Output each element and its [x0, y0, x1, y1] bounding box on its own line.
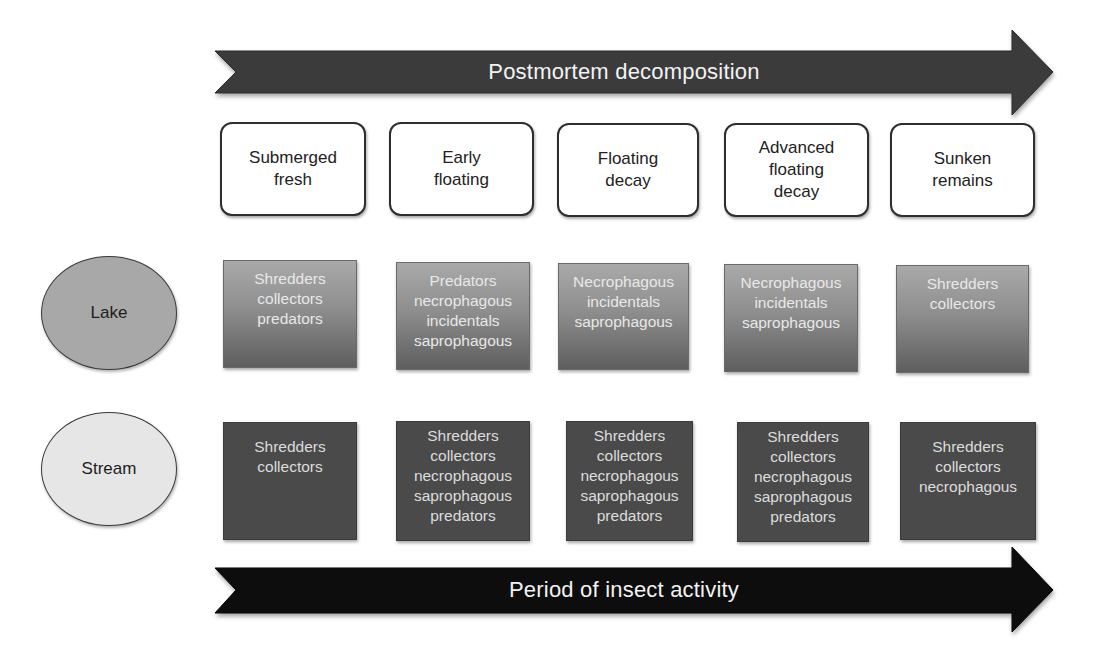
cell-text: Shredders collectors necrophagous saprop… — [580, 427, 678, 524]
habitat-stream: Stream — [41, 412, 177, 526]
stream-cell-floating-decay: Shredders collectors necrophagous saprop… — [566, 421, 693, 541]
habitat-label: Stream — [82, 459, 137, 479]
lake-cell-advanced-floating-decay: Necrophagous incidentals saprophagous — [724, 264, 858, 372]
cell-text: Shredders collectors necrophagous saprop… — [754, 428, 852, 525]
stage-early-floating: Early floating — [389, 122, 534, 216]
cell-text: Shredders collectors necrophagous — [919, 438, 1017, 495]
lake-cell-floating-decay: Necrophagous incidentals saprophagous — [558, 263, 689, 370]
stage-label: Advanced floating decay — [759, 137, 835, 203]
stream-cell-advanced-floating-decay: Shredders collectors necrophagous saprop… — [737, 422, 869, 542]
stage-label: Floating decay — [598, 148, 658, 192]
habitat-lake: Lake — [41, 256, 177, 370]
habitat-label: Lake — [91, 303, 128, 323]
top-arrow-label: Postmortem decomposition — [236, 59, 1012, 85]
cell-text: Predators necrophagous incidentals sapro… — [414, 272, 512, 349]
stream-cell-early-floating: Shredders collectors necrophagous saprop… — [396, 421, 530, 541]
cell-text: Shredders collectors — [254, 438, 326, 475]
stage-sunken-remains: Sunken remains — [890, 123, 1035, 217]
lake-cell-submerged-fresh: Shredders collectors predators — [223, 260, 357, 368]
bottom-arrow-label: Period of insect activity — [236, 577, 1012, 603]
cell-text: Shredders collectors predators — [254, 270, 326, 327]
stage-advanced-floating-decay: Advanced floating decay — [724, 123, 869, 217]
stage-floating-decay: Floating decay — [557, 123, 699, 217]
stream-cell-submerged-fresh: Shredders collectors — [223, 422, 357, 540]
cell-text: Shredders collectors necrophagous saprop… — [414, 427, 512, 524]
cell-text: Necrophagous incidentals saprophagous — [573, 273, 674, 330]
stage-label: Early floating — [434, 147, 489, 191]
lake-cell-early-floating: Predators necrophagous incidentals sapro… — [396, 262, 530, 370]
stage-label: Sunken remains — [932, 148, 992, 192]
stage-label: Submerged fresh — [249, 147, 337, 191]
stream-cell-sunken-remains: Shredders collectors necrophagous — [900, 422, 1036, 540]
cell-text: Shredders collectors — [927, 275, 999, 312]
stage-submerged-fresh: Submerged fresh — [220, 122, 366, 216]
cell-text: Necrophagous incidentals saprophagous — [741, 274, 842, 331]
lake-cell-sunken-remains: Shredders collectors — [896, 265, 1029, 373]
